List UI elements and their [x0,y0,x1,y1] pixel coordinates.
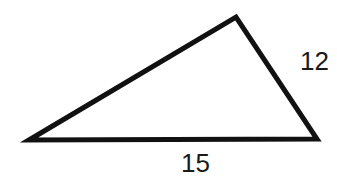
triangle-figure [0,0,337,184]
triangle-shape [29,17,317,140]
right-side-length-label: 12 [300,48,329,74]
bottom-side-length-label: 15 [181,150,210,176]
triangle-diagram: 12 15 [0,0,337,184]
